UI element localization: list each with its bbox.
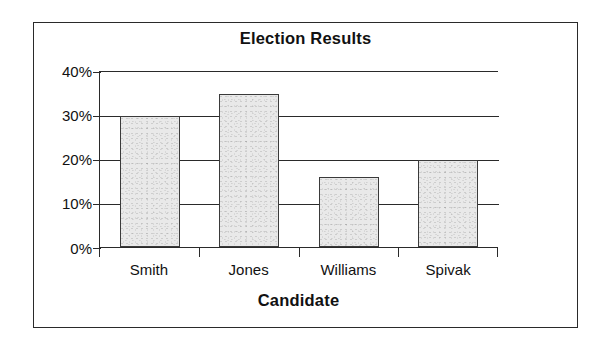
bar-williams: [319, 177, 379, 247]
bar-spivak: [418, 160, 478, 248]
x-tick-label-smith: Smith: [99, 262, 199, 277]
x-tick-label-jones: Jones: [199, 262, 299, 277]
y-tick-label-0: 0%: [70, 241, 92, 256]
y-tick-label-40: 40%: [62, 64, 92, 79]
y-tick-mark-30: [93, 116, 101, 117]
x-tick-mark-4: [497, 248, 498, 257]
plot-area: [99, 71, 498, 248]
y-tick-mark-20: [93, 160, 101, 161]
y-tick-mark-40: [93, 72, 101, 73]
y-tick-label-10: 10%: [62, 196, 92, 211]
bar-smith: [120, 116, 180, 247]
x-axis-tick-marks: [99, 248, 498, 258]
x-tick-label-williams: Williams: [299, 262, 399, 277]
x-tick-mark-0: [99, 248, 100, 257]
x-axis-tick-labels: Smith Jones Williams Spivak: [99, 262, 498, 286]
bar-jones: [219, 94, 279, 247]
chart-title: Election Results: [33, 29, 578, 48]
x-tick-mark-1: [199, 248, 200, 257]
x-tick-mark-2: [299, 248, 300, 257]
y-tick-mark-10: [93, 204, 101, 205]
x-axis-title: Candidate: [99, 291, 498, 310]
x-tick-mark-3: [398, 248, 399, 257]
x-tick-label-spivak: Spivak: [398, 262, 498, 277]
y-tick-label-30: 30%: [62, 108, 92, 123]
bar-chart-figure: Election Results 40% 30% 20% 10% 0% Smit…: [0, 0, 600, 342]
y-tick-label-20: 20%: [62, 152, 92, 167]
y-axis-tick-labels: 40% 30% 20% 10% 0%: [34, 0, 92, 342]
